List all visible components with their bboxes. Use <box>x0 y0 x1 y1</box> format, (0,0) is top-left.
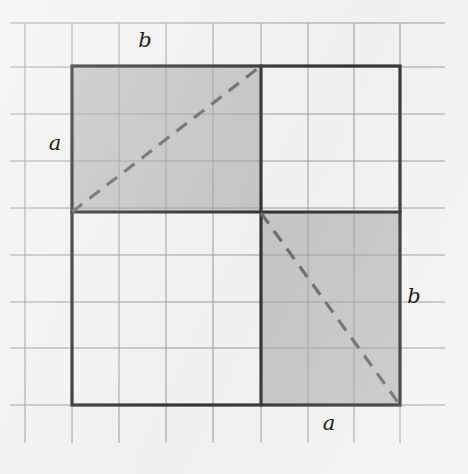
label-bottom-a: a <box>323 413 336 434</box>
pythagorean-dissection-figure: b a b a <box>0 0 468 474</box>
diagram-canvas <box>0 0 468 474</box>
label-left-a: a <box>49 133 62 154</box>
label-right-b: b <box>407 286 420 307</box>
label-top-b: b <box>138 30 151 51</box>
